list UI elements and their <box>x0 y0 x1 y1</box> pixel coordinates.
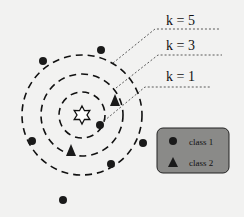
circle-icon <box>169 137 177 145</box>
class1-point <box>96 121 104 129</box>
class1-point <box>59 196 67 204</box>
legend-class1: class 1 <box>189 137 213 147</box>
class1-point <box>28 137 36 145</box>
class1-point <box>107 160 115 168</box>
k5-label: k = 5 <box>166 13 195 28</box>
diagram-canvas: k = 5 k = 3 k = 1 class 1 class 2 <box>0 0 244 217</box>
k3-label: k = 3 <box>166 38 195 53</box>
class2-point <box>110 94 120 106</box>
legend-class2: class 2 <box>189 158 213 168</box>
k1-label: k = 1 <box>166 69 195 84</box>
class2-point <box>66 144 76 156</box>
knn-diagram: k = 5 k = 3 k = 1 class 1 class 2 <box>0 0 244 217</box>
k1-leader-line <box>104 87 210 121</box>
class1-point <box>39 57 47 65</box>
legend-box: class 1 class 2 <box>157 128 229 173</box>
class1-point <box>97 46 105 54</box>
class1-point <box>139 139 147 147</box>
star-icon <box>74 106 90 124</box>
